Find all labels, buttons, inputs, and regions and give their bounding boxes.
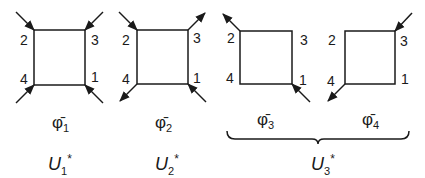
vertex-label: 3 <box>300 33 308 47</box>
vertex-label: 1 <box>91 70 99 84</box>
vertex-label: 2 <box>20 33 28 47</box>
vertex-label: 4 <box>327 74 335 88</box>
u-label-3: U3* <box>311 150 335 178</box>
vertex-label: 4 <box>20 72 28 86</box>
square-phi3 <box>240 31 292 84</box>
vertex-label: 2 <box>122 33 130 47</box>
vertex-label: 2 <box>227 31 235 45</box>
feynman-diagram-figure: 2 3 4 1 2 3 4 1 2 3 4 1 2 3 4 1 φ̄1 φ̄2 … <box>0 0 425 178</box>
phi-label-1: φ̄1 <box>52 114 69 137</box>
vertex-label: 3 <box>400 34 408 48</box>
brace <box>227 131 409 144</box>
vertex-label: 1 <box>193 71 201 85</box>
vertex-label: 3 <box>193 31 201 45</box>
vertex-label: 3 <box>91 33 99 47</box>
u-label-1: U1* <box>48 150 72 178</box>
square-phi4 <box>345 31 395 84</box>
phi-label-4: φ̄4 <box>362 111 379 134</box>
phi-label-2: φ̄2 <box>155 114 172 137</box>
square-phi2 <box>137 30 188 84</box>
u-label-2: U2* <box>155 150 179 178</box>
vertex-label: 2 <box>328 33 336 47</box>
vertex-label: 4 <box>226 71 234 85</box>
square-phi1 <box>34 30 85 85</box>
phi-label-3: φ̄3 <box>257 111 274 134</box>
vertex-label: 1 <box>299 73 307 87</box>
vertex-label: 1 <box>401 72 409 86</box>
vertex-label: 4 <box>122 72 130 86</box>
